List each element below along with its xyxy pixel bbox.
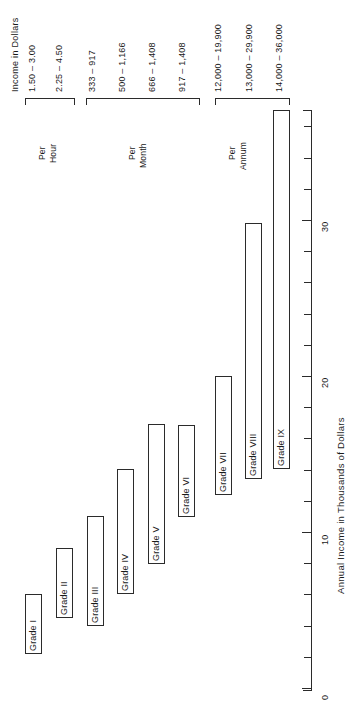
axis-tick-0 xyxy=(302,688,311,689)
bar-label-grade-9: Grade IX xyxy=(277,429,286,466)
header-title: Income in Dollars xyxy=(11,17,20,92)
bracket-label-per-hour-line1: Per xyxy=(38,146,47,160)
income-value-grade-4: 500 – 1,166 xyxy=(118,42,127,92)
axis-tick-24 xyxy=(304,314,311,315)
axis-tick-label-30: 30 xyxy=(321,222,330,232)
axis-tick-22 xyxy=(304,345,311,346)
axis-tick-label-20: 20 xyxy=(321,378,330,388)
bracket-per-annum xyxy=(215,98,290,105)
bar-grade-9[interactable] xyxy=(273,110,290,469)
axis-top-cap xyxy=(303,110,312,111)
bracket-label-per-month-line1: Per xyxy=(128,146,137,160)
axis-tick-16 xyxy=(304,438,311,439)
income-value-grade-8: 13,000 – 29,900 xyxy=(245,24,254,92)
bar-label-grade-2: Grade II xyxy=(60,581,69,615)
income-value-grade-1: 1.50 – 3.00 xyxy=(28,45,37,92)
bar-label-grade-5: Grade V xyxy=(152,526,161,561)
bar-label-grade-1: Grade I xyxy=(29,620,38,651)
axis-tick-8 xyxy=(304,563,311,564)
axis-tick-2 xyxy=(304,657,311,658)
axis-title: Annual Income in Thousands of Dollars xyxy=(336,417,346,594)
bar-label-grade-4: Grade IV xyxy=(121,554,130,591)
income-value-grade-7: 12,000 – 19,900 xyxy=(214,24,223,92)
axis-tick-10 xyxy=(302,532,311,533)
bracket-per-month xyxy=(86,98,200,105)
axis-tick-14 xyxy=(304,470,311,471)
bracket-per-hour xyxy=(25,98,75,105)
bracket-label-per-annum-line2: Annum xyxy=(239,142,248,170)
axis-tick-26 xyxy=(304,282,311,283)
axis-tick-28 xyxy=(304,251,311,252)
chart-figure: Income in Dollars 1.50 – 3.00 2.25 – 4.5… xyxy=(0,0,347,707)
value-axis-line xyxy=(311,110,312,690)
income-value-grade-2: 2.25 – 4.50 xyxy=(55,45,64,92)
income-value-grade-3: 333 – 917 xyxy=(88,50,97,92)
axis-bottom-cap xyxy=(303,690,312,691)
axis-tick-12 xyxy=(304,501,311,502)
axis-tick-30 xyxy=(302,220,311,221)
income-value-grade-6: 917 – 1,408 xyxy=(178,42,187,92)
axis-tick-18 xyxy=(304,407,311,408)
income-value-grade-5: 666 – 1,408 xyxy=(148,42,157,92)
income-value-grade-9: 14,000 – 36,000 xyxy=(275,24,284,92)
axis-tick-20 xyxy=(302,376,311,377)
axis-tick-4 xyxy=(304,626,311,627)
axis-tick-32 xyxy=(304,189,311,190)
bracket-label-per-hour-line2: Hour xyxy=(49,144,58,163)
bracket-label-per-month-line2: Month xyxy=(139,143,148,168)
axis-tick-6 xyxy=(304,594,311,595)
bracket-label-per-annum-line1: Per xyxy=(228,146,237,160)
bar-label-grade-3: Grade III xyxy=(91,587,100,623)
bar-label-grade-7: Grade VII xyxy=(219,452,228,492)
bar-label-grade-6: Grade VI xyxy=(182,477,191,514)
axis-tick-36 xyxy=(304,126,311,127)
axis-tick-34 xyxy=(304,158,311,159)
axis-tick-label-10: 10 xyxy=(321,535,330,545)
bar-label-grade-8: Grade VIII xyxy=(249,433,258,476)
axis-tick-label-0: 0 xyxy=(321,695,330,700)
